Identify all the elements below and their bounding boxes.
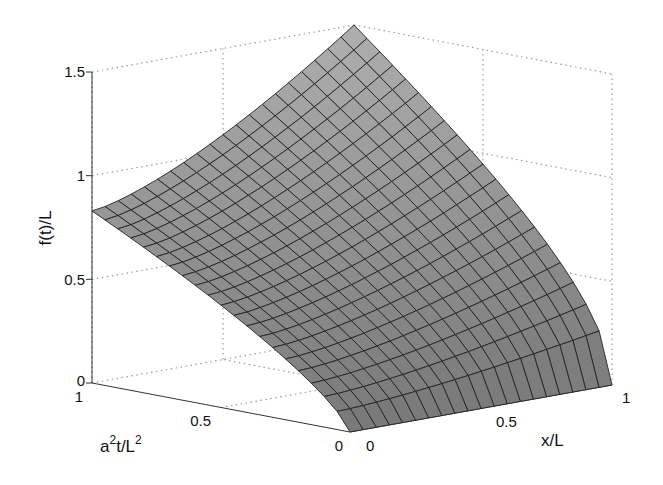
z-tick-1: 1 [77, 167, 85, 184]
z-axis-label: f(t)/L [36, 211, 55, 246]
x-tick-0.5: 0.5 [496, 413, 517, 430]
x-tick-1: 1 [622, 389, 630, 406]
z-tick-0: 0 [77, 372, 85, 389]
z-tick-0.5: 0.5 [64, 271, 85, 288]
surface-plot: 1.5 1 0.5 0 1 0.5 0 0 0.5 1 f(t)/L a2t/L… [0, 0, 663, 485]
t-tick-0.5: 0.5 [190, 412, 211, 429]
x-tick-0: 0 [366, 437, 374, 454]
t-tick-0: 0 [335, 437, 343, 454]
z-tick-1.5: 1.5 [64, 63, 85, 80]
x-axis-label: x/L [541, 431, 564, 450]
t-axis-label: a2t/L2 [100, 433, 142, 456]
t-tick-1: 1 [75, 388, 83, 405]
surface-mesh [92, 25, 612, 432]
